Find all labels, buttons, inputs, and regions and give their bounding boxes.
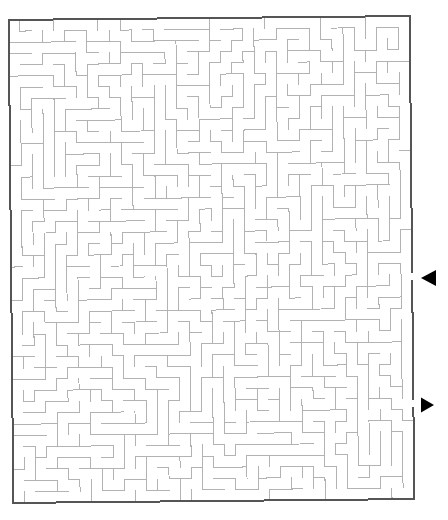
maze-border-right [412, 281, 413, 399]
maze-figure [0, 0, 448, 520]
maze-page [0, 0, 448, 520]
maze-canvas [0, 0, 448, 520]
maze-border-right [413, 408, 414, 499]
